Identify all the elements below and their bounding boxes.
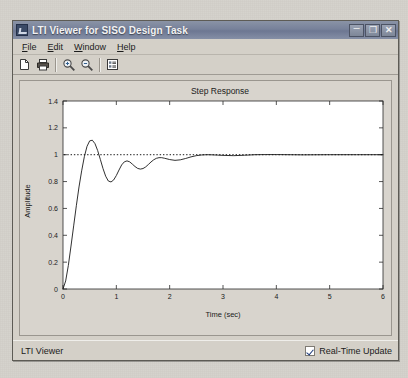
page-icon: [18, 58, 31, 71]
printer-icon: [36, 58, 50, 71]
plot-title: Step Response: [191, 86, 249, 96]
menu-edit-rest: dit: [54, 42, 64, 52]
minimize-icon: –: [350, 22, 363, 33]
x-tick-label: 5: [328, 293, 332, 300]
y-tick-label: 0: [54, 286, 58, 293]
y-tick-label: 0.4: [48, 232, 58, 239]
realtime-update-checkbox-box[interactable]: [305, 346, 315, 356]
menu-item-file[interactable]: File: [17, 41, 43, 53]
close-icon: ✕: [382, 25, 395, 36]
plot-xlabel: Time (sec): [205, 310, 241, 319]
x-tick-label: 4: [274, 293, 278, 300]
maximize-button[interactable]: ❐: [365, 24, 380, 37]
plot-ylabel: Amplitude: [23, 184, 32, 217]
figure-panel[interactable]: Step Response Amplitude Time (sec) 01234…: [19, 80, 392, 336]
new-figure-button[interactable]: [16, 57, 33, 73]
zoom-in-button[interactable]: [60, 57, 77, 73]
toolbar-separator-2: [99, 58, 101, 72]
close-button[interactable]: ✕: [381, 24, 396, 37]
zoom-out-icon: [80, 58, 94, 72]
status-message: LTI Viewer: [21, 346, 63, 356]
menubar: File Edit Window Help: [13, 39, 398, 55]
minimize-button[interactable]: –: [349, 24, 364, 37]
statusbar: LTI Viewer Real-Time Update: [13, 340, 398, 360]
response-config-button[interactable]: [104, 57, 121, 73]
x-tick-label: 6: [381, 293, 385, 300]
properties-icon: [106, 58, 119, 71]
plot-area: [63, 101, 383, 289]
menu-item-window[interactable]: Window: [69, 41, 112, 53]
y-tick-label: 1.2: [48, 124, 58, 131]
print-button[interactable]: [34, 57, 51, 73]
zoom-in-icon: [62, 58, 76, 72]
realtime-update-checkbox[interactable]: Real-Time Update: [305, 346, 392, 356]
window-title: LTI Viewer for SISO Design Task: [32, 25, 348, 36]
zoom-out-button[interactable]: [78, 57, 95, 73]
plot-axes: 012345600.20.40.60.811.21.4: [48, 98, 385, 300]
menu-help-rest: elp: [124, 42, 136, 52]
menu-file-rest: ile: [28, 42, 37, 52]
realtime-update-label: Real-Time Update: [319, 346, 392, 356]
lti-viewer-window: LTI Viewer for SISO Design Task – ❐ ✕ Fi…: [12, 20, 399, 361]
maximize-icon: ❐: [366, 25, 379, 36]
lti-viewer-icon: [16, 24, 28, 36]
window-titlebar[interactable]: LTI Viewer for SISO Design Task – ❐ ✕: [13, 21, 398, 39]
menu-item-help[interactable]: Help: [112, 41, 142, 53]
menu-window-mnemonic: W: [74, 42, 83, 52]
x-tick-label: 3: [221, 293, 225, 300]
y-tick-label: 1: [54, 151, 58, 158]
x-tick-label: 0: [61, 293, 65, 300]
step-response-plot[interactable]: Step Response Amplitude Time (sec) 01234…: [20, 81, 392, 324]
menu-item-edit[interactable]: Edit: [43, 41, 70, 53]
y-tick-label: 0.2: [48, 259, 58, 266]
x-tick-label: 1: [114, 293, 118, 300]
toolbar-separator-1: [55, 58, 57, 72]
y-tick-label: 1.4: [48, 98, 58, 105]
y-tick-label: 0.8: [48, 178, 58, 185]
menu-window-rest: indow: [83, 42, 107, 52]
toolbar: [13, 55, 398, 75]
x-tick-label: 2: [168, 293, 172, 300]
y-tick-label: 0.6: [48, 205, 58, 212]
